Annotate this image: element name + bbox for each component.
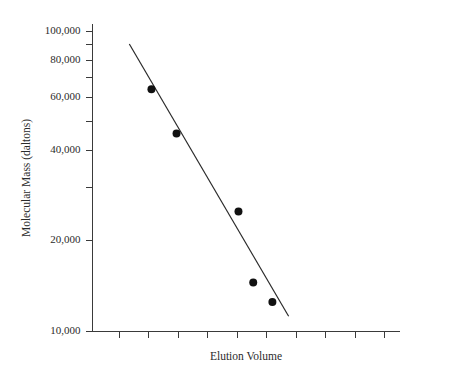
y-axis-major-ticks	[86, 31, 93, 331]
x-axis-ticks	[119, 332, 385, 339]
y-axis-minor-ticks	[86, 45, 93, 188]
fit-line	[129, 44, 288, 316]
y-axis-title: Molecular Mass (daltons)	[20, 119, 33, 237]
x-axis-title: Elution Volume	[210, 350, 282, 362]
y-tick-label: 60,000	[50, 90, 81, 102]
y-tick-label: 40,000	[50, 143, 81, 155]
y-tick-label: 10,000	[50, 324, 81, 336]
data-point-marker	[234, 208, 242, 216]
data-point-marker	[249, 279, 257, 287]
y-axis-tick-labels: 100,00080,00060,00040,00020,00010,000	[45, 24, 81, 336]
calibration-fit-line	[129, 44, 288, 316]
chart-container: 100,00080,00060,00040,00020,00010,000 El…	[0, 0, 451, 376]
data-point-marker	[173, 130, 181, 138]
data-points	[147, 85, 276, 306]
y-tick-label: 100,000	[45, 24, 81, 36]
y-tick-label: 20,000	[50, 233, 81, 245]
data-point-marker	[268, 298, 276, 306]
scatter-plot: 100,00080,00060,00040,00020,00010,000 El…	[0, 0, 451, 376]
y-tick-label: 80,000	[50, 53, 81, 65]
data-point-marker	[147, 85, 155, 93]
